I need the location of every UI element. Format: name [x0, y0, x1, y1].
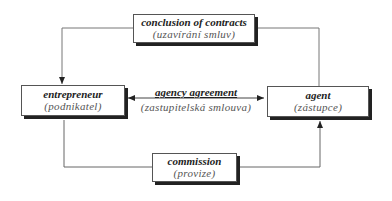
edge-agent-to-contracts — [257, 28, 319, 86]
edge-commission-to-agent — [239, 121, 320, 167]
node-agent: agent (zástupce) — [267, 86, 369, 117]
relation-subtitle: (zastupitelská smlouva) — [128, 101, 264, 114]
edge-entrepreneur-to-commission — [64, 120, 152, 167]
relation-title: agency agreement — [128, 86, 264, 98]
node-subtitle: (uzavírání smluv) — [153, 28, 235, 41]
edge-contracts-to-entrepreneur — [62, 28, 133, 84]
node-subtitle: (podnikatel) — [44, 100, 101, 113]
node-conclusion-of-contracts: conclusion of contracts (uzavírání smluv… — [133, 14, 255, 43]
node-entrepreneur: entrepreneur (podnikatel) — [21, 85, 125, 116]
node-subtitle: (provize) — [173, 167, 215, 180]
node-title: conclusion of contracts — [141, 16, 247, 28]
node-commission: commission (provize) — [152, 153, 237, 182]
node-title: commission — [168, 155, 222, 167]
agency-agreement-label: agency agreement (zastupitelská smlouva) — [128, 86, 264, 114]
node-title: agent — [305, 89, 330, 101]
node-subtitle: (zástupce) — [294, 101, 342, 114]
node-title: entrepreneur — [43, 88, 102, 100]
